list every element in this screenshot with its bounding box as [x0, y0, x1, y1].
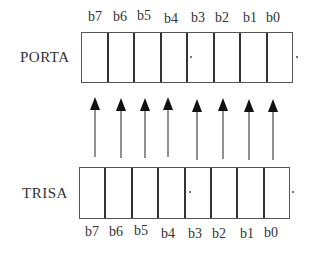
trisa-cell-b6: [106, 168, 132, 218]
dot-mark: [292, 191, 294, 193]
trisa-cell-b5: [133, 168, 159, 218]
trisa-bit-label: b6: [109, 224, 123, 240]
arrow-up-icon: [90, 97, 100, 157]
trisa-bit-label: b1: [240, 226, 254, 242]
dot-mark: [189, 191, 191, 193]
trisa-bit-label: b4: [161, 226, 175, 242]
trisa-cell-b4: [159, 168, 185, 218]
trisa-cell-b3: [186, 168, 212, 218]
trisa-cell-b1: [238, 168, 264, 218]
trisa-bit-label: b3: [188, 226, 202, 242]
trisa-bit-label: b2: [212, 226, 226, 242]
arrow-up-icon: [244, 99, 254, 160]
trisa-bit-label: b7: [85, 224, 99, 240]
arrow-up-icon: [218, 98, 228, 159]
arrow-up-icon: [268, 99, 278, 160]
arrow-up-icon: [192, 99, 202, 160]
arrow-up-icon: [163, 97, 173, 157]
arrow-up-icon: [116, 98, 126, 158]
arrow-up-icon: [140, 98, 150, 158]
trisa-cell-b2: [212, 168, 238, 218]
trisa-cell-b7: [80, 168, 106, 218]
trisa-cell-b0: [265, 168, 289, 218]
trisa-register: [79, 167, 290, 219]
trisa-bit-label: b5: [134, 223, 148, 239]
trisa-bit-labels: b7 b6 b5 b4 b3 b2 b1 b0: [0, 224, 313, 240]
trisa-label: TRISA: [22, 185, 68, 202]
trisa-bit-label: b0: [264, 225, 278, 241]
